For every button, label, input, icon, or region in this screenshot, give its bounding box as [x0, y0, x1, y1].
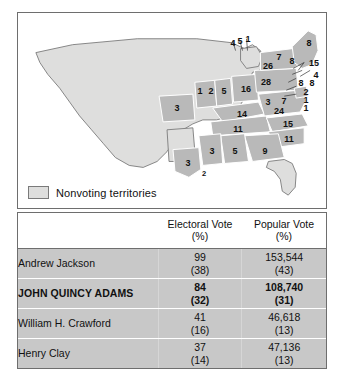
popular-vote-cell: 108,740 (31)	[242, 279, 326, 309]
electoral-vote-cell: 37 (14)	[158, 339, 242, 369]
map-label-maryland-2: 1	[303, 104, 308, 113]
map-label-north-carolina: 15	[283, 120, 293, 129]
election-results-table: Electoral Vote (%) Popular Vote (%) Andr…	[18, 213, 326, 368]
map-label-new-hampshire: 8	[289, 57, 294, 66]
map-label-missouri: 3	[174, 104, 179, 113]
electoral-vote-percent: (16)	[159, 324, 242, 337]
popular-vote-value: 47,136	[242, 341, 326, 354]
table-header-row: Electoral Vote (%) Popular Vote (%)	[18, 213, 326, 249]
map-label-illinois-1: 1	[197, 87, 202, 96]
column-header-electoral-vote-percent: (%)	[158, 230, 242, 242]
map-label-new-jersey: 8	[309, 79, 314, 88]
popular-vote-percent: (13)	[242, 324, 326, 337]
candidate-name: Andrew Jackson	[18, 249, 158, 279]
map-label-virginia-3: 3	[265, 98, 270, 107]
table-row: William H. Crawford 41 (16) 46,618 (13)	[18, 309, 326, 339]
map-label-vermont: 7	[276, 53, 281, 62]
map-legend: Nonvoting territories	[28, 186, 157, 199]
popular-vote-cell: 46,618 (13)	[242, 309, 326, 339]
territory-florida	[266, 159, 296, 195]
map-label-virginia-24: 24	[274, 107, 284, 116]
election-map-figure: 4 5 1 8 7 8 15 26 4 8 8 28 2 1 1 16 5 1 …	[0, 0, 344, 381]
column-header-electoral-vote-label: Electoral Vote	[158, 218, 242, 230]
map-label-ohio: 16	[241, 85, 251, 94]
electoral-vote-percent: (32)	[159, 294, 242, 307]
map-label-new-york: 26	[263, 62, 273, 71]
map-panel: 4 5 1 8 7 8 15 26 4 8 8 28 2 1 1 16 5 1 …	[17, 12, 327, 209]
electoral-vote-value: 99	[159, 251, 242, 264]
electoral-vote-cell: 41 (16)	[158, 309, 242, 339]
map-label-maine: 8	[306, 39, 311, 48]
map-label-mississippi: 3	[209, 147, 214, 156]
electoral-vote-value: 41	[159, 311, 242, 324]
candidate-name: Henry Clay	[18, 339, 158, 369]
column-header-popular-vote-percent: (%)	[242, 230, 326, 242]
table-row: JOHN QUINCY ADAMS 84 (32) 108,740 (31)	[18, 279, 326, 309]
candidate-name: William H. Crawford	[18, 309, 158, 339]
electoral-vote-percent: (14)	[159, 354, 242, 367]
map-label-south-carolina: 11	[284, 135, 294, 144]
electoral-vote-value: 84	[159, 281, 242, 294]
map-label-michigan-4: 4	[230, 39, 235, 48]
map-label-massachusetts: 15	[309, 59, 319, 68]
column-header-candidate	[18, 213, 158, 249]
table-row: Henry Clay 37 (14) 47,136 (13)	[18, 339, 326, 369]
map-label-georgia: 9	[262, 147, 267, 156]
map-label-kentucky: 14	[237, 110, 247, 119]
map-label-indiana: 5	[221, 87, 226, 96]
table-header: Electoral Vote (%) Popular Vote (%)	[18, 213, 326, 249]
table-row: Andrew Jackson 99 (38) 153,544 (43)	[18, 249, 326, 279]
column-header-popular-vote-label: Popular Vote	[242, 218, 326, 230]
table-body: Andrew Jackson 99 (38) 153,544 (43) JOHN…	[18, 249, 326, 369]
electoral-vote-percent: (38)	[159, 264, 242, 277]
map-label-tennessee: 11	[233, 125, 243, 134]
nonvoting-territories-swatch	[28, 186, 49, 199]
popular-vote-percent: (43)	[242, 264, 326, 277]
popular-vote-value: 108,740	[242, 281, 326, 294]
candidate-name: JOHN QUINCY ADAMS	[18, 279, 158, 309]
map-label-michigan-1: 1	[245, 35, 250, 44]
popular-vote-cell: 47,136 (13)	[242, 339, 326, 369]
popular-vote-cell: 153,544 (43)	[242, 249, 326, 279]
map-label-mississippi-gulf: 2	[202, 169, 206, 178]
map-label-virginia-7: 7	[281, 97, 286, 106]
map-label-pennsylvania: 28	[261, 78, 271, 87]
results-table-container: Electoral Vote (%) Popular Vote (%) Andr…	[17, 212, 327, 369]
popular-vote-percent: (31)	[242, 294, 326, 307]
legend-label-nonvoting-territories: Nonvoting territories	[56, 187, 157, 199]
map-label-alabama: 5	[232, 147, 237, 156]
popular-vote-value: 153,544	[242, 251, 326, 264]
electoral-vote-value: 37	[159, 341, 242, 354]
popular-vote-value: 46,618	[242, 311, 326, 324]
column-header-electoral-vote: Electoral Vote (%)	[158, 213, 242, 249]
electoral-vote-cell: 84 (32)	[158, 279, 242, 309]
map-label-michigan-5: 5	[237, 37, 242, 46]
map-label-illinois-2: 2	[208, 87, 213, 96]
map-label-louisiana: 3	[185, 159, 190, 168]
popular-vote-percent: (13)	[242, 354, 326, 367]
electoral-vote-cell: 99 (38)	[158, 249, 242, 279]
column-header-popular-vote: Popular Vote (%)	[242, 213, 326, 249]
